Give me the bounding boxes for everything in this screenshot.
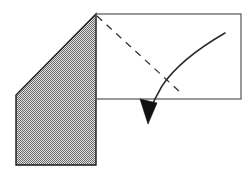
fold-diagram-svg [0,0,249,180]
diagram-canvas [0,0,249,180]
